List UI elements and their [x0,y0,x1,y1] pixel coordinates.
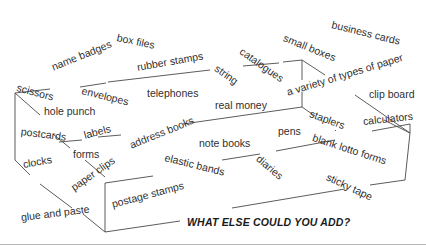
word-label: note books [199,138,250,149]
box-edge-front-bottom [105,221,180,232]
callout-question: WHAT ELSE COULD YOU ADD? [187,217,350,228]
word-label: forms [73,149,99,160]
word-label: pens [278,126,301,137]
word-label: telephones [147,88,198,99]
box-edge-front-top [105,176,153,183]
word-label: clip board [369,89,415,100]
box-edge-right-top [302,60,325,75]
box-edge-front-right-vertical [405,133,410,180]
word-box-diagram: box filesname badgesrubber stampsbusines… [0,0,426,248]
word-label: real money [215,100,267,111]
word-label: hole punch [44,106,95,117]
divider [0,244,426,245]
